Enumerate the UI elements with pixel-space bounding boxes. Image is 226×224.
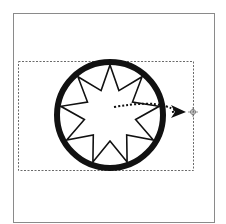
star-shape[interactable] — [61, 65, 159, 162]
diagram-canvas — [0, 0, 226, 224]
anchor-handle-icon[interactable] — [188, 107, 198, 117]
